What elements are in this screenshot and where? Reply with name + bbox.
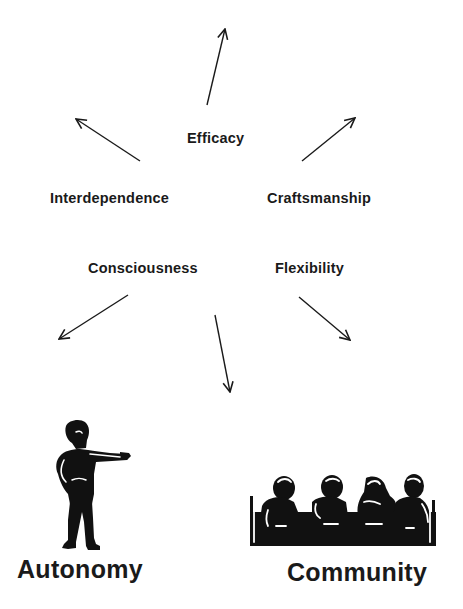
- arrow-up-left: [76, 119, 140, 161]
- label-craftsmanship: Craftsmanship: [267, 191, 371, 206]
- label-autonomy: Autonomy: [17, 557, 143, 582]
- label-community: Community: [287, 560, 427, 585]
- arrow-up: [207, 29, 225, 105]
- label-flexibility: Flexibility: [275, 261, 344, 276]
- label-consciousness: Consciousness: [88, 261, 198, 276]
- arrow-down-left: [59, 295, 128, 339]
- arrow-up-right: [302, 118, 355, 161]
- people-at-table-icon: [246, 472, 440, 550]
- concept-diagram: Efficacy Interdependence Craftsmanship C…: [0, 0, 463, 609]
- label-interdependence: Interdependence: [50, 191, 169, 206]
- arrow-down: [215, 315, 230, 392]
- label-efficacy: Efficacy: [187, 131, 244, 146]
- arrow-down-right: [299, 297, 350, 340]
- pointing-person-icon: [30, 418, 140, 553]
